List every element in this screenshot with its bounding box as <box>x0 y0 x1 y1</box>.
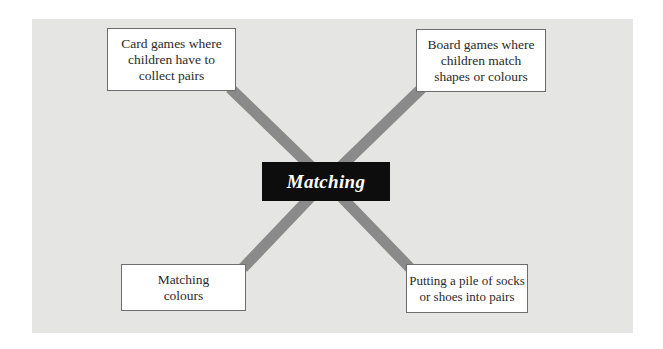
center-label: Matching <box>287 171 365 193</box>
center-node: Matching <box>262 162 390 201</box>
node-label: Card games where children have to collec… <box>121 36 221 84</box>
node-label: Board games where children match shapes … <box>427 37 534 85</box>
node-top-left: Card games where children have to collec… <box>107 28 236 91</box>
node-label: Putting a pile of socks or shoes into pa… <box>409 273 525 305</box>
node-label: Matching colours <box>158 272 210 304</box>
node-bottom-left: Matching colours <box>121 264 246 311</box>
node-bottom-right: Putting a pile of socks or shoes into pa… <box>406 264 528 313</box>
node-top-right: Board games where children match shapes … <box>416 29 546 92</box>
